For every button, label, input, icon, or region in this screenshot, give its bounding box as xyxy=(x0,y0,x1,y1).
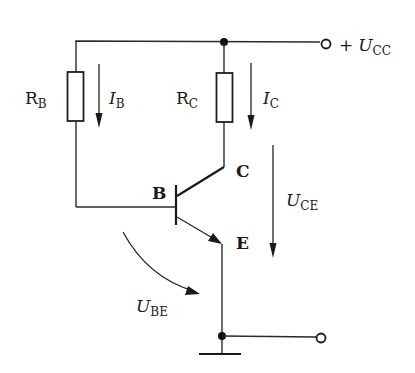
ube-label: UBE xyxy=(136,296,168,319)
pin-e-label: E xyxy=(236,233,249,253)
uce-label: UCE xyxy=(286,190,318,213)
collector-lead xyxy=(177,167,224,196)
emitter-arrow-icon xyxy=(208,233,222,244)
top-rail-wire xyxy=(76,41,320,42)
output-wire xyxy=(222,336,316,337)
vcc-label: +UCC xyxy=(339,35,391,58)
npn-transistor xyxy=(176,167,224,244)
ube-arrow-head xyxy=(185,286,200,295)
ic-label: IC xyxy=(262,88,279,111)
output-terminal[interactable] xyxy=(317,334,326,343)
ic-arrow-head xyxy=(248,115,255,130)
emitter-lead xyxy=(177,217,216,240)
rc-label: RC xyxy=(176,88,198,111)
rb-label: RB xyxy=(25,88,47,111)
ube-arrow-curve xyxy=(123,232,194,291)
ib-arrow-head xyxy=(96,113,103,128)
pin-c-label: C xyxy=(236,161,250,181)
vcc-terminal[interactable] xyxy=(322,40,331,49)
transistor-circuit-diagram: +UCC RB IB RC IC B C E UCE xyxy=(0,0,415,373)
pin-b-label: B xyxy=(152,183,166,203)
uce-arrow-head xyxy=(270,243,277,258)
ib-label: IB xyxy=(108,88,125,111)
collector-resistor xyxy=(217,73,233,122)
base-resistor xyxy=(68,72,84,121)
